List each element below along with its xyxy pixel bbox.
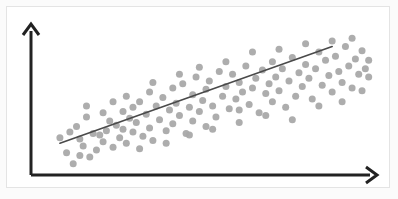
scatter-point (252, 75, 259, 82)
scatter-point (242, 62, 249, 69)
scatter-point (262, 112, 269, 119)
scatter-point (186, 104, 193, 111)
scatter-point (163, 140, 170, 147)
scatter-point (216, 68, 223, 75)
scatter-point (302, 61, 309, 68)
scatter-point (302, 40, 309, 47)
scatter-point (123, 93, 130, 100)
scatter-point (249, 49, 256, 56)
scatter-point (359, 47, 366, 54)
scatter-point (345, 62, 352, 69)
scatter-point (169, 120, 176, 127)
scatter-point (100, 138, 107, 145)
scatter-point (76, 152, 83, 159)
scatter-point (176, 71, 183, 78)
scatter-point (276, 87, 283, 94)
scatter-point (83, 102, 90, 109)
scatter-point (193, 73, 200, 80)
scatter-point (229, 71, 236, 78)
scatter-point (315, 102, 322, 109)
scatter-point (279, 65, 286, 72)
scatter-point (73, 123, 80, 130)
plot-canvas (0, 0, 398, 199)
scatter-point (322, 57, 329, 64)
scatter-point (146, 89, 153, 96)
scatter-point (206, 78, 213, 85)
scatter-point (96, 131, 103, 138)
scatter-point (266, 80, 273, 87)
scatter-point (63, 149, 70, 156)
scatter-point (116, 134, 123, 141)
axes-layer (23, 24, 377, 183)
scatter-point (146, 124, 153, 131)
scatter-point (110, 98, 117, 105)
scatter-point (120, 108, 127, 115)
scatter-point (169, 84, 176, 91)
scatter-point (236, 107, 243, 114)
scatter-point (209, 126, 216, 133)
scatter-point (56, 134, 63, 141)
scatter-point (222, 58, 229, 65)
scatter-point (269, 58, 276, 65)
scatter-point (295, 69, 302, 76)
scatter-point (129, 129, 136, 136)
scatter-point (355, 71, 362, 78)
scatter-point (329, 38, 336, 45)
scatter-point (329, 89, 336, 96)
scatter-point (319, 82, 326, 89)
scatter-point (123, 140, 130, 147)
scatter-point (136, 145, 143, 152)
scatter-point (189, 118, 196, 125)
scatter-point (256, 109, 263, 116)
scatter-point (365, 73, 372, 80)
scatter-point (139, 133, 146, 140)
scatter-point (349, 84, 356, 91)
scatter-point (196, 64, 203, 71)
scatter-point (179, 80, 186, 87)
scatter-point (262, 90, 269, 97)
trend-line-layer (60, 47, 332, 144)
scatter-point (349, 35, 356, 42)
scatter-point (86, 153, 93, 160)
scatter-point (159, 94, 166, 101)
scatter-point (163, 127, 170, 134)
scatter-point (332, 53, 339, 60)
scatter-point (100, 109, 107, 116)
scatter-point (176, 112, 183, 119)
scatter-point (203, 123, 210, 130)
scatter-point (196, 108, 203, 115)
scatter-point (156, 116, 163, 123)
scatter-point (309, 96, 316, 103)
scatter-point (232, 96, 239, 103)
scatter-point (286, 78, 293, 85)
scatter-point (136, 98, 143, 105)
scatter-point (249, 84, 256, 91)
scatter-point (129, 104, 136, 111)
scatter-point (66, 129, 73, 136)
scatter-point (226, 105, 233, 112)
scatter-point (312, 65, 319, 72)
scatter-point (342, 43, 349, 50)
scatter-point (83, 113, 90, 120)
scatter-point (239, 89, 246, 96)
scatter-point (365, 57, 372, 64)
scatter-point (282, 104, 289, 111)
scatter-point (80, 142, 87, 149)
scatter-point (219, 93, 226, 100)
scatter-point (335, 68, 342, 75)
scatter-point (359, 87, 366, 94)
scatter-point (93, 147, 100, 154)
scatter-point (149, 79, 156, 86)
scatter-point (149, 137, 156, 144)
scatter-point (325, 72, 332, 79)
scatter-point (246, 101, 253, 108)
scatter-point (272, 73, 279, 80)
scatter-point (209, 102, 216, 109)
scatter-point (339, 98, 346, 105)
scatter-points-layer (56, 35, 372, 168)
scatter-point (166, 107, 173, 114)
scatter-point (276, 46, 283, 53)
scatter-point (133, 119, 140, 126)
scatter-point (352, 55, 359, 62)
scatter-point (269, 98, 276, 105)
